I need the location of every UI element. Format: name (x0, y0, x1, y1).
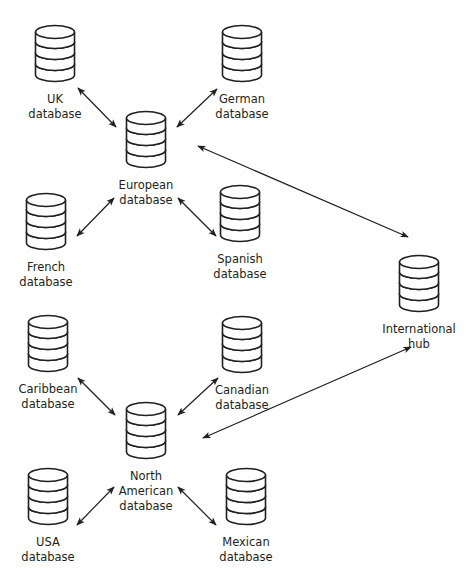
database-icon (25, 192, 67, 252)
database-icon (398, 254, 440, 314)
node-caribbean: Caribbean database (0, 314, 98, 412)
node-uk: UK database (5, 24, 105, 122)
node-label: USA database (21, 535, 74, 565)
node-label: Canadian database (215, 383, 269, 413)
database-icon (125, 110, 167, 170)
database-icon (225, 467, 267, 527)
database-icon (221, 24, 263, 84)
node-european: European database (96, 110, 196, 208)
node-label: North American database (119, 469, 174, 514)
node-canadian: Canadian database (192, 315, 292, 413)
node-north-american: North American database (96, 401, 196, 514)
node-usa: USA database (0, 467, 98, 565)
node-german: German database (192, 24, 292, 122)
node-label: French database (19, 260, 72, 290)
database-icon (27, 467, 69, 527)
database-icon (125, 401, 167, 461)
database-icon (219, 184, 261, 244)
database-network-diagram: UK database German database (0, 0, 472, 577)
node-label: Spanish database (213, 252, 266, 282)
database-icon (27, 314, 69, 374)
node-mexican: Mexican database (196, 467, 296, 565)
database-icon (34, 24, 76, 84)
node-international: International hub (369, 254, 469, 352)
node-label: German database (215, 92, 268, 122)
node-label: European database (119, 178, 174, 208)
node-french: French database (0, 192, 96, 290)
node-label: Mexican database (219, 535, 272, 565)
node-spanish: Spanish database (190, 184, 290, 282)
database-icon (221, 315, 263, 375)
node-label: International hub (382, 322, 455, 352)
node-label: Caribbean database (18, 382, 77, 412)
node-label: UK database (28, 92, 81, 122)
